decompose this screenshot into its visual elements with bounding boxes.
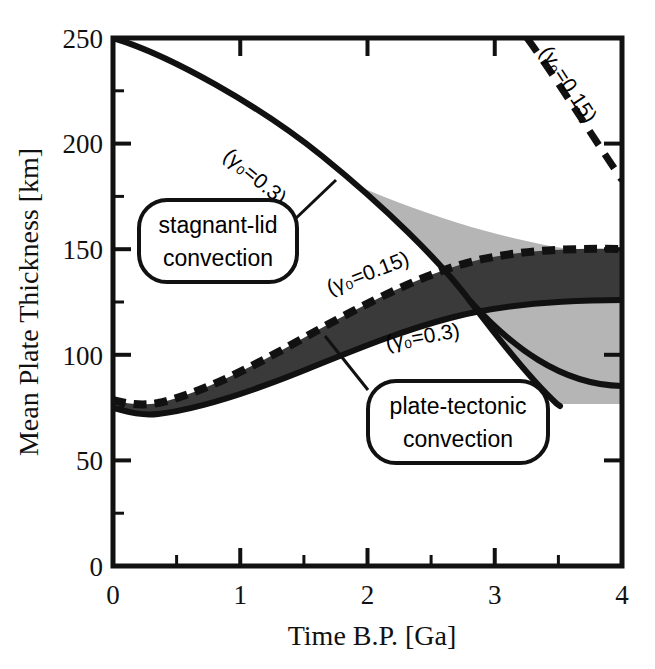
y-tick-label-250: 250 [63,24,104,54]
x-tick-label-3: 3 [488,580,502,610]
plate-thickness-chart: 250 200 150 100 50 0 0 1 2 3 4 Time B.P.… [0,0,655,669]
x-tick-label-2: 2 [361,580,375,610]
y-tick-label-200: 200 [63,129,104,159]
y-tick-label-50: 50 [76,446,103,476]
x-tick-label-0: 0 [106,580,120,610]
callout-stagnant-lid-line2: convection [163,245,273,271]
y-tick-label-150: 150 [63,235,104,265]
x-tick-label-4: 4 [615,580,629,610]
figure-root: 250 200 150 100 50 0 0 1 2 3 4 Time B.P.… [0,0,655,669]
y-tick-label-100: 100 [63,341,104,371]
callout-plate-tectonic-line2: convection [403,426,513,452]
x-axis-title: Time B.P. [Ga] [288,620,457,651]
y-axis-title: Mean Plate Thickness [km] [13,148,44,456]
callout-stagnant-lid-line1: stagnant-lid [159,212,278,238]
x-tick-label-1: 1 [234,580,248,610]
y-tick-label-0: 0 [90,552,104,582]
callout-plate-tectonic-line1: plate-tectonic [390,393,527,419]
